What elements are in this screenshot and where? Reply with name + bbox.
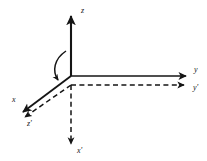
coordinate-axes-figure: z y x y' x' z' — [0, 0, 207, 161]
axis-y: y — [71, 65, 198, 76]
axis-z: z — [71, 6, 85, 76]
axis-x-line — [23, 76, 71, 112]
axis-z-label: z — [80, 6, 85, 15]
axis-x-prime: x' — [71, 85, 83, 155]
axis-y-label: y — [193, 65, 198, 74]
axis-z-prime-label: z' — [26, 119, 32, 128]
axis-y-prime: y' — [71, 83, 199, 92]
rotation-arc — [55, 51, 66, 80]
axis-x-label: x — [11, 95, 16, 104]
rotation-arc-path — [55, 51, 66, 80]
axes-diagram-canvas: z y x y' x' z' — [0, 0, 207, 161]
axis-y-prime-label: y' — [192, 83, 199, 92]
axis-x-prime-label: x' — [76, 146, 83, 155]
axis-z-prime-line — [25, 85, 71, 117]
